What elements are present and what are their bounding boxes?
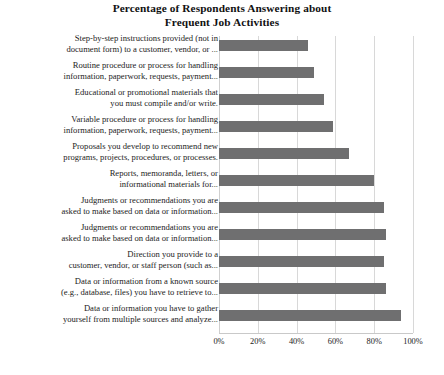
category-label: Judgments or recommendations you areaske… bbox=[18, 222, 218, 243]
category-label-line: customer, vendor, or staff person (such … bbox=[18, 260, 218, 271]
category-label-line: information, paperwork, requests, paymen… bbox=[18, 125, 218, 136]
bar-row: Step-by-step instructions provided (not … bbox=[0, 33, 444, 60]
bar bbox=[219, 229, 386, 240]
category-label-line: Data or information you have to gather bbox=[18, 303, 218, 314]
category-label-line: asked to make based on data or informati… bbox=[18, 233, 218, 244]
category-label-line: Educational or promotional materials tha… bbox=[18, 87, 218, 98]
bar-chart: Percentage of Respondents Answering abou… bbox=[0, 0, 444, 375]
category-label: Step-by-step instructions provided (not … bbox=[18, 33, 218, 54]
bar bbox=[219, 283, 386, 294]
x-tick-label: 0% bbox=[213, 336, 224, 347]
category-label-line: you must compile and/or write. bbox=[18, 98, 218, 109]
x-tick-label: 40% bbox=[289, 336, 304, 347]
chart-title-line-1: Percentage of Respondents Answering abou… bbox=[0, 2, 444, 16]
category-label-line: Proposals you develop to recommend new bbox=[18, 141, 218, 152]
category-label: Judgments or recommendations you areaske… bbox=[18, 195, 218, 216]
bar bbox=[219, 310, 401, 321]
category-label: Routine procedure or process for handlin… bbox=[18, 60, 218, 81]
category-label-line: informational materials for... bbox=[18, 179, 218, 190]
category-label-line: Judgments or recommendations you are bbox=[18, 222, 218, 233]
bar bbox=[219, 67, 314, 78]
bar bbox=[219, 121, 333, 132]
category-label: Data or information from a known source(… bbox=[18, 276, 218, 297]
category-label: Data or information you have to gatheryo… bbox=[18, 303, 218, 324]
bar-row: Direction you provide to acustomer, vend… bbox=[0, 249, 444, 276]
category-label-line: information, paperwork, requests, paymen… bbox=[18, 71, 218, 82]
chart-title-line-2: Frequent Job Activities bbox=[0, 16, 444, 30]
category-label-line: Direction you provide to a bbox=[18, 249, 218, 260]
chart-title: Percentage of Respondents Answering abou… bbox=[0, 2, 444, 29]
bar bbox=[219, 40, 308, 51]
bar-row: Reports, memoranda, letters, orinformati… bbox=[0, 168, 444, 195]
category-label: Direction you provide to acustomer, vend… bbox=[18, 249, 218, 270]
x-tick-label: 80% bbox=[367, 336, 382, 347]
category-label: Variable procedure or process for handli… bbox=[18, 114, 218, 135]
bar-row: Variable procedure or process for handli… bbox=[0, 114, 444, 141]
bar-row: Data or information you have to gatheryo… bbox=[0, 303, 444, 330]
category-label: Educational or promotional materials tha… bbox=[18, 87, 218, 108]
bar bbox=[219, 175, 374, 186]
category-label-line: (e.g., database, files) you have to retr… bbox=[18, 287, 218, 298]
bar-row: Educational or promotional materials tha… bbox=[0, 87, 444, 114]
bar-row: Judgments or recommendations you areaske… bbox=[0, 222, 444, 249]
x-axis-tick-labels: 0%20%40%60%80%100% bbox=[0, 336, 444, 352]
bar-rows: Step-by-step instructions provided (not … bbox=[0, 33, 444, 333]
category-label-line: Step-by-step instructions provided (not … bbox=[18, 33, 218, 44]
bar-row: Data or information from a known source(… bbox=[0, 276, 444, 303]
bar bbox=[219, 256, 384, 267]
category-label: Proposals you develop to recommend newpr… bbox=[18, 141, 218, 162]
category-label: Reports, memoranda, letters, orinformati… bbox=[18, 168, 218, 189]
category-label-line: Reports, memoranda, letters, or bbox=[18, 168, 218, 179]
category-label-line: Data or information from a known source bbox=[18, 276, 218, 287]
category-label-line: Routine procedure or process for handlin… bbox=[18, 60, 218, 71]
x-axis-baseline bbox=[219, 333, 413, 334]
bar bbox=[219, 148, 349, 159]
category-label-line: document form) to a customer, vendor, or… bbox=[18, 44, 218, 55]
bar-row: Routine procedure or process for handlin… bbox=[0, 60, 444, 87]
bar bbox=[219, 202, 384, 213]
x-tick-label: 100% bbox=[403, 336, 423, 347]
x-tick-label: 60% bbox=[328, 336, 343, 347]
category-label-line: yourself from multiple sources and analy… bbox=[18, 314, 218, 325]
category-label-line: Variable procedure or process for handli… bbox=[18, 114, 218, 125]
bar-row: Judgments or recommendations you areaske… bbox=[0, 195, 444, 222]
category-label-line: Judgments or recommendations you are bbox=[18, 195, 218, 206]
bar-row: Proposals you develop to recommend newpr… bbox=[0, 141, 444, 168]
bar bbox=[219, 94, 324, 105]
category-label-line: programs, projects, procedures, or proce… bbox=[18, 152, 218, 163]
category-label-line: asked to make based on data or informati… bbox=[18, 206, 218, 217]
x-tick-label: 20% bbox=[250, 336, 265, 347]
